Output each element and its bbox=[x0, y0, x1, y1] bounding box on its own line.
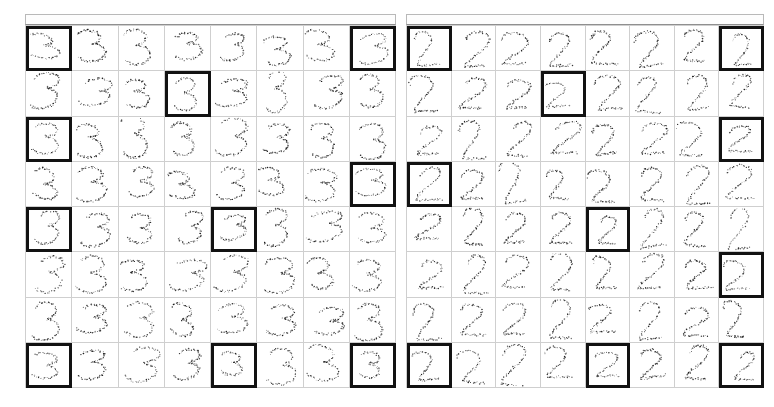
digit-cell[interactable] bbox=[496, 207, 541, 252]
digit-cell[interactable] bbox=[541, 117, 586, 162]
digit-cell[interactable] bbox=[541, 162, 586, 207]
digit-cell[interactable] bbox=[586, 71, 631, 116]
digit-cell[interactable] bbox=[675, 207, 720, 252]
digit-cell[interactable] bbox=[304, 343, 350, 388]
digit-cell[interactable] bbox=[211, 26, 257, 71]
digit-cell[interactable] bbox=[407, 252, 452, 297]
digit-cell[interactable] bbox=[452, 26, 497, 71]
digit-cell[interactable] bbox=[452, 298, 497, 343]
digit-cell[interactable] bbox=[72, 162, 118, 207]
digit-cell[interactable] bbox=[119, 298, 165, 343]
digit-cell[interactable] bbox=[675, 343, 720, 388]
digit-cell[interactable] bbox=[304, 162, 350, 207]
digit-cell[interactable] bbox=[496, 71, 541, 116]
digit-cell[interactable] bbox=[119, 26, 165, 71]
digit-cell[interactable] bbox=[541, 252, 586, 297]
digit-cell[interactable] bbox=[165, 343, 211, 388]
digit-cell[interactable] bbox=[257, 343, 303, 388]
digit-cell[interactable] bbox=[119, 117, 165, 162]
digit-cell[interactable] bbox=[257, 162, 303, 207]
digit-cell[interactable] bbox=[211, 162, 257, 207]
digit-cell-highlighted[interactable] bbox=[26, 207, 72, 252]
digit-cell[interactable] bbox=[119, 71, 165, 116]
digit-cell[interactable] bbox=[407, 207, 452, 252]
digit-cell[interactable] bbox=[257, 117, 303, 162]
digit-cell[interactable] bbox=[119, 162, 165, 207]
digit-cell-highlighted[interactable] bbox=[26, 117, 72, 162]
digit-cell[interactable] bbox=[72, 26, 118, 71]
digit-cell[interactable] bbox=[452, 252, 497, 297]
digit-cell[interactable] bbox=[350, 252, 396, 297]
digit-cell[interactable] bbox=[72, 207, 118, 252]
digit-cell[interactable] bbox=[630, 207, 675, 252]
digit-cell[interactable] bbox=[72, 298, 118, 343]
digit-cell-highlighted[interactable] bbox=[719, 343, 764, 388]
digit-cell[interactable] bbox=[630, 343, 675, 388]
digit-cell-highlighted[interactable] bbox=[541, 71, 586, 116]
digit-cell-highlighted[interactable] bbox=[165, 71, 211, 116]
digit-cell[interactable] bbox=[304, 26, 350, 71]
digit-cell[interactable] bbox=[211, 298, 257, 343]
digit-cell[interactable] bbox=[586, 298, 631, 343]
digit-cell[interactable] bbox=[407, 298, 452, 343]
digit-cell[interactable] bbox=[165, 298, 211, 343]
digit-cell[interactable] bbox=[165, 207, 211, 252]
digit-cell[interactable] bbox=[119, 207, 165, 252]
digit-cell[interactable] bbox=[407, 71, 452, 116]
digit-cell[interactable] bbox=[675, 26, 720, 71]
digit-cell[interactable] bbox=[452, 207, 497, 252]
digit-cell[interactable] bbox=[257, 298, 303, 343]
digit-cell[interactable] bbox=[26, 298, 72, 343]
digit-cell[interactable] bbox=[719, 298, 764, 343]
digit-cell-highlighted[interactable] bbox=[350, 26, 396, 71]
digit-cell[interactable] bbox=[72, 252, 118, 297]
digit-cell[interactable] bbox=[675, 117, 720, 162]
digit-cell[interactable] bbox=[304, 252, 350, 297]
digit-cell-highlighted[interactable] bbox=[350, 343, 396, 388]
digit-cell[interactable] bbox=[211, 71, 257, 116]
digit-cell[interactable] bbox=[496, 252, 541, 297]
digit-cell[interactable] bbox=[675, 252, 720, 297]
digit-cell-highlighted[interactable] bbox=[719, 117, 764, 162]
digit-cell[interactable] bbox=[257, 252, 303, 297]
digit-cell-highlighted[interactable] bbox=[26, 343, 72, 388]
digit-cell-highlighted[interactable] bbox=[26, 26, 72, 71]
digit-cell[interactable] bbox=[26, 162, 72, 207]
digit-cell[interactable] bbox=[630, 252, 675, 297]
digit-cell[interactable] bbox=[304, 117, 350, 162]
digit-cell[interactable] bbox=[407, 117, 452, 162]
digit-cell-highlighted[interactable] bbox=[407, 26, 452, 71]
digit-cell[interactable] bbox=[586, 162, 631, 207]
digit-cell[interactable] bbox=[304, 298, 350, 343]
digit-cell[interactable] bbox=[586, 252, 631, 297]
digit-cell[interactable] bbox=[350, 71, 396, 116]
digit-cell[interactable] bbox=[496, 117, 541, 162]
digit-cell[interactable] bbox=[119, 252, 165, 297]
digit-cell[interactable] bbox=[541, 343, 586, 388]
digit-cell[interactable] bbox=[630, 117, 675, 162]
digit-cell[interactable] bbox=[72, 343, 118, 388]
digit-cell-highlighted[interactable] bbox=[719, 26, 764, 71]
digit-cell[interactable] bbox=[119, 343, 165, 388]
digit-cell[interactable] bbox=[541, 207, 586, 252]
digit-cell[interactable] bbox=[452, 162, 497, 207]
digit-cell-highlighted[interactable] bbox=[350, 162, 396, 207]
digit-cell[interactable] bbox=[165, 26, 211, 71]
digit-cell-highlighted[interactable] bbox=[407, 343, 452, 388]
digit-cell-highlighted[interactable] bbox=[407, 162, 452, 207]
digit-cell[interactable] bbox=[452, 71, 497, 116]
digit-cell[interactable] bbox=[257, 207, 303, 252]
digit-cell[interactable] bbox=[630, 162, 675, 207]
digit-cell[interactable] bbox=[304, 207, 350, 252]
digit-cell[interactable] bbox=[72, 71, 118, 116]
digit-cell-highlighted[interactable] bbox=[586, 207, 631, 252]
digit-cell[interactable] bbox=[257, 71, 303, 116]
digit-cell[interactable] bbox=[165, 252, 211, 297]
digit-cell[interactable] bbox=[630, 298, 675, 343]
digit-cell[interactable] bbox=[72, 117, 118, 162]
digit-cell[interactable] bbox=[541, 26, 586, 71]
digit-cell[interactable] bbox=[496, 26, 541, 71]
digit-cell-highlighted[interactable] bbox=[211, 343, 257, 388]
digit-cell[interactable] bbox=[586, 26, 631, 71]
digit-cell[interactable] bbox=[630, 71, 675, 116]
